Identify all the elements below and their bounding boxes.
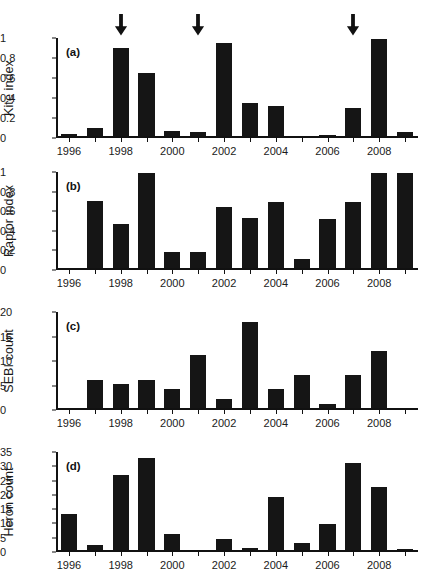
x-tick-mark <box>69 552 70 556</box>
y-tick-mark <box>52 138 56 139</box>
y-tick-mark <box>52 250 56 251</box>
bar <box>164 389 180 408</box>
y-tick-label: 0.4 <box>0 92 49 104</box>
bar <box>113 48 129 137</box>
y-tick-label: 0 <box>0 546 49 558</box>
bar <box>190 132 206 136</box>
y-tick-mark <box>52 230 56 231</box>
bar <box>164 252 180 268</box>
y-tick-mark <box>52 537 56 538</box>
bar <box>268 106 284 137</box>
y-tick-label: 0.6 <box>0 205 49 217</box>
x-tick-label: 2006 <box>315 277 339 289</box>
bar <box>397 173 413 268</box>
x-tick-mark <box>353 552 354 556</box>
x-tick-mark <box>69 138 70 142</box>
bar <box>371 487 387 550</box>
x-tick-label: 2008 <box>367 417 391 429</box>
y-tick-label: 20 <box>0 489 49 501</box>
x-tick-mark <box>405 270 406 274</box>
y-tick-mark <box>52 385 56 386</box>
caption-strip <box>0 570 423 579</box>
x-tick-mark <box>276 138 277 142</box>
x-tick-mark <box>172 410 173 414</box>
y-tick-label: 0.8 <box>0 186 49 198</box>
x-tick-label: 2002 <box>212 277 236 289</box>
bar <box>345 108 361 137</box>
figure-root: Kite index00.20.40.60.811996199820002002… <box>0 0 423 579</box>
bar <box>371 39 387 136</box>
bar <box>294 259 310 269</box>
bar <box>242 103 258 136</box>
x-tick-mark <box>250 552 251 556</box>
bar <box>242 548 258 550</box>
bar <box>371 351 387 409</box>
x-tick-mark <box>379 410 380 414</box>
y-tick-mark <box>52 494 56 495</box>
x-tick-mark <box>405 552 406 556</box>
bar <box>345 375 361 409</box>
bar <box>345 202 361 269</box>
x-tick-mark <box>147 270 148 274</box>
y-tick-mark <box>52 509 56 510</box>
y-tick-label: 0 <box>0 404 49 416</box>
x-tick-mark <box>353 138 354 142</box>
x-tick-mark <box>172 552 173 556</box>
x-tick-mark <box>121 410 122 414</box>
x-tick-mark <box>224 552 225 556</box>
panel-a: Kite index00.20.40.60.811996199820002002… <box>0 14 423 156</box>
x-tick-label: 2000 <box>160 417 184 429</box>
bar <box>113 384 129 408</box>
x-tick-mark <box>328 138 329 142</box>
bar <box>164 131 180 137</box>
y-tick-mark <box>52 480 56 481</box>
y-tick-mark <box>52 466 56 467</box>
y-tick-mark <box>52 211 56 212</box>
plot-area <box>56 312 418 410</box>
y-tick-mark <box>52 172 56 173</box>
y-tick-mark <box>52 336 56 337</box>
panel-c: SEBI count051015201996199820002002200420… <box>0 296 423 436</box>
bar <box>319 135 335 136</box>
bar <box>138 380 154 409</box>
x-tick-mark <box>302 410 303 414</box>
x-tick-mark <box>147 138 148 142</box>
x-tick-mark <box>405 410 406 414</box>
x-tick-mark <box>95 410 96 414</box>
bar <box>164 534 180 551</box>
y-tick-label: 1 <box>0 32 49 44</box>
bar <box>216 399 232 409</box>
bar <box>216 207 232 269</box>
y-tick-mark <box>52 191 56 192</box>
x-tick-mark <box>276 270 277 274</box>
bar <box>190 252 206 268</box>
x-tick-mark <box>379 138 380 142</box>
bar <box>61 514 77 551</box>
y-tick-label: 0.4 <box>0 225 49 237</box>
x-tick-label: 1996 <box>57 277 81 289</box>
x-tick-mark <box>224 410 225 414</box>
x-tick-mark <box>121 552 122 556</box>
y-tick-label: 10 <box>0 517 49 529</box>
bar <box>294 543 310 550</box>
bar <box>138 73 154 136</box>
y-tick-label: 0.6 <box>0 72 49 84</box>
bar <box>190 355 206 408</box>
bar <box>397 549 413 550</box>
x-tick-mark <box>172 138 173 142</box>
bar <box>61 134 77 136</box>
x-tick-mark <box>198 270 199 274</box>
x-tick-mark <box>69 410 70 414</box>
down-arrow-icon <box>114 14 127 36</box>
bar <box>319 524 335 551</box>
x-tick-mark <box>224 138 225 142</box>
x-tick-mark <box>69 270 70 274</box>
x-tick-label: 1998 <box>108 417 132 429</box>
panel-b: Raptor index00.20.40.60.8119961998200020… <box>0 156 423 296</box>
x-tick-mark <box>405 138 406 142</box>
y-tick-mark <box>52 312 56 313</box>
x-tick-mark <box>379 270 380 274</box>
y-tick-label: 10 <box>0 355 49 367</box>
bar <box>294 375 310 409</box>
y-tick-mark <box>52 58 56 59</box>
